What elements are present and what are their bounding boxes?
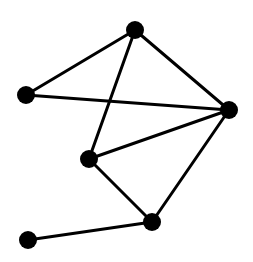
- edge-A-D: [89, 30, 135, 159]
- edge-A-C: [135, 30, 229, 110]
- edge-B-C: [26, 95, 229, 110]
- node-D: [80, 150, 98, 168]
- node-E: [143, 213, 161, 231]
- node-B: [17, 86, 35, 104]
- edge-C-E: [152, 110, 229, 222]
- edge-layer: [26, 30, 229, 240]
- edge-E-F: [28, 222, 152, 240]
- node-A: [126, 21, 144, 39]
- node-F: [19, 231, 37, 249]
- edge-A-B: [26, 30, 135, 95]
- edge-D-E: [89, 159, 152, 222]
- edge-D-C: [89, 110, 229, 159]
- graph-diagram: [0, 0, 253, 262]
- node-C: [220, 101, 238, 119]
